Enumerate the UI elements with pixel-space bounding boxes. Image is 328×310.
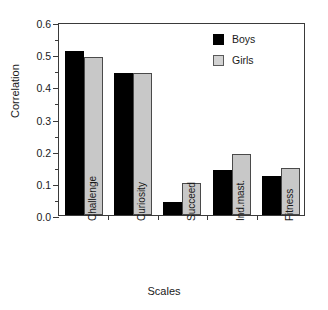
- x-tick: [257, 215, 258, 220]
- bar-group: [257, 22, 306, 215]
- bar-boys: [163, 202, 182, 215]
- legend-item-girls: Girls: [213, 52, 255, 68]
- chart-legend: Boys Girls: [213, 31, 255, 73]
- chart-figure: Correlation 0.00.10.20.30.40.50.6 Challe…: [0, 0, 328, 310]
- y-tick-label: 0.2: [36, 147, 51, 159]
- bar-boys: [65, 51, 84, 215]
- y-tick-major: [53, 217, 59, 218]
- x-tick-label: Succeed: [186, 182, 197, 221]
- cropped-caption-text: [4, 0, 144, 8]
- y-tick-label: 0.4: [36, 82, 51, 94]
- bar-group: [59, 22, 108, 215]
- y-tick-label: 0.6: [36, 18, 51, 30]
- legend-swatch-girls-icon: [213, 55, 224, 66]
- legend-swatch-boys-icon: [213, 34, 224, 45]
- y-tick-label: 0.5: [36, 50, 51, 62]
- legend-label-boys: Boys: [232, 33, 255, 45]
- y-tick-label: 0.3: [36, 115, 51, 127]
- x-tick-label: Curiosity: [136, 182, 147, 221]
- x-tick-label: Ind.mast.: [235, 180, 246, 221]
- y-axis-title: Correlation: [9, 64, 21, 118]
- bar-boys: [114, 73, 133, 215]
- x-tick: [158, 215, 159, 220]
- x-axis-title: Scales: [0, 285, 328, 297]
- bar-group: [158, 22, 207, 215]
- x-tick-label: Fitness: [284, 189, 295, 221]
- x-tick-label: Challenge: [87, 176, 98, 221]
- y-tick-label: 0.1: [36, 179, 51, 191]
- x-tick: [108, 215, 109, 220]
- y-tick-label: 0.0: [36, 211, 51, 223]
- bar-boys: [262, 176, 281, 215]
- x-tick: [207, 215, 208, 220]
- bar-group: [108, 22, 157, 215]
- legend-item-boys: Boys: [213, 31, 255, 47]
- bar-boys: [213, 170, 232, 215]
- legend-label-girls: Girls: [232, 54, 254, 66]
